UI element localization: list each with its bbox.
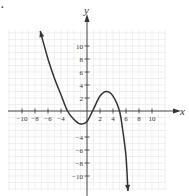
x-tick-label: 4	[111, 115, 115, 123]
x-tick-label: 6	[124, 115, 128, 123]
y-tick-label: 2	[80, 95, 84, 103]
x-tick-label: −10	[17, 115, 28, 123]
y-tick-label: −6	[76, 147, 84, 155]
axis-ticks: −10−8−6−4246810108642−4−6−8−10	[17, 43, 156, 181]
y-tick-label: 8	[80, 56, 84, 64]
x-axis-label: x	[179, 105, 185, 117]
y-axis-label: y	[83, 4, 89, 16]
y-tick-label: 4	[80, 82, 84, 90]
x-tick-label: 10	[149, 115, 157, 123]
x-tick-label: 2	[98, 115, 102, 123]
y-tick-label: −10	[72, 173, 83, 181]
y-tick-label: 10	[76, 43, 84, 51]
y-tick-label: −4	[76, 134, 84, 142]
figure-marker: .	[1, 0, 4, 10]
x-tick-label: −4	[57, 115, 65, 123]
x-tick-label: 8	[137, 115, 141, 123]
y-tick-label: 6	[80, 69, 84, 77]
y-tick-label: −8	[76, 160, 84, 168]
function-graph: −10−8−6−4246810108642−4−6−8−10 x y .	[0, 0, 189, 196]
curve-arrowhead	[39, 31, 44, 37]
x-tick-label: −8	[31, 115, 39, 123]
axes	[8, 14, 181, 196]
x-tick-label: −6	[44, 115, 52, 123]
